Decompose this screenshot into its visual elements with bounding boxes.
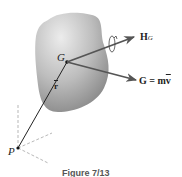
reference-point bbox=[16, 146, 19, 149]
label-r: r bbox=[54, 82, 58, 91]
label-linear-momentum-v: v bbox=[166, 75, 171, 86]
diagram-canvas bbox=[0, 0, 182, 177]
label-HG-main: H bbox=[140, 31, 148, 42]
label-G: G bbox=[57, 52, 65, 63]
label-HG-sub: G bbox=[148, 34, 153, 42]
label-P: P bbox=[8, 146, 15, 157]
reference-axes bbox=[18, 103, 52, 163]
label-linear-momentum-main: G = m bbox=[139, 75, 166, 86]
label-HG: HG bbox=[140, 32, 153, 42]
figure-caption: Figure 7/13 bbox=[62, 168, 110, 177]
label-linear-momentum: G = mv bbox=[139, 76, 171, 86]
